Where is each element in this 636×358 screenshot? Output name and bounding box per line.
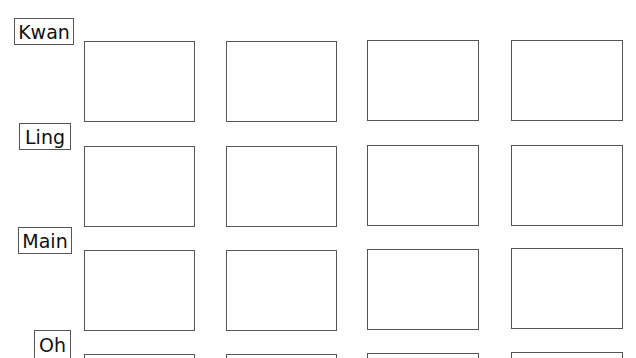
answer-box[interactable] (226, 250, 337, 331)
row-label-main: Main (18, 227, 72, 254)
answer-box[interactable] (226, 41, 337, 122)
answer-box[interactable] (84, 146, 195, 227)
answer-box[interactable] (511, 352, 623, 358)
row-label-ling: Ling (19, 123, 71, 150)
answer-box[interactable] (367, 40, 479, 121)
answer-box[interactable] (367, 249, 479, 330)
answer-box[interactable] (84, 354, 195, 358)
answer-box[interactable] (511, 40, 623, 121)
answer-box[interactable] (367, 145, 479, 226)
answer-box[interactable] (226, 146, 337, 227)
answer-box[interactable] (226, 354, 337, 358)
row-label-kwan: Kwan (14, 18, 74, 45)
answer-box[interactable] (84, 250, 195, 331)
answer-box[interactable] (84, 41, 195, 122)
answer-box[interactable] (511, 248, 623, 329)
answer-box[interactable] (511, 145, 623, 226)
answer-box[interactable] (367, 353, 479, 358)
row-label-oh: Oh (34, 330, 71, 358)
